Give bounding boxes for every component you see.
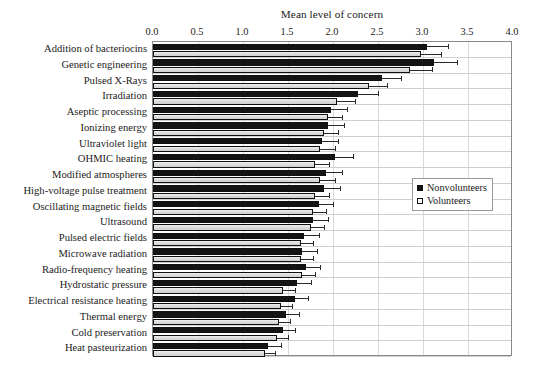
error-bar <box>301 259 314 260</box>
bar-volunteers <box>153 130 324 136</box>
error-bar-cap <box>342 115 343 120</box>
error-bar <box>320 180 334 181</box>
y-axis-label: Irradiation <box>102 88 147 104</box>
error-bar <box>337 101 355 102</box>
bar-group <box>153 58 511 74</box>
y-axis-label: Genetic engineering <box>61 57 147 73</box>
error-bar <box>286 314 299 315</box>
bar-group <box>153 105 511 121</box>
bar-group <box>153 294 511 310</box>
y-axis-label: Ultraviolet light <box>79 136 147 152</box>
error-bar <box>302 251 316 252</box>
error-bar <box>283 330 296 331</box>
error-bar <box>324 133 338 134</box>
bar-volunteers <box>153 335 277 341</box>
bar-nonvolunteers <box>153 264 306 270</box>
error-bar <box>301 243 314 244</box>
y-axis-category-labels: Addition of bacteriocinsGenetic engineer… <box>0 41 150 356</box>
bar-group <box>153 74 511 90</box>
error-bar-cap <box>281 343 282 348</box>
x-tick-label: 1.0 <box>236 26 249 37</box>
bar-group <box>153 121 511 137</box>
error-bar <box>328 125 344 126</box>
error-bar-cap <box>333 202 334 207</box>
bar-nonvolunteers <box>153 248 302 254</box>
bar-volunteers <box>153 303 281 309</box>
error-bar <box>427 46 449 47</box>
error-bar-cap <box>335 146 336 151</box>
y-axis-label: High-voltage pulse treatment <box>23 183 147 199</box>
error-bar <box>421 54 441 55</box>
error-bar-cap <box>401 76 402 81</box>
error-bar <box>283 290 296 291</box>
bar-volunteers <box>153 177 320 183</box>
y-axis-label: Radio-frequency heating <box>42 262 147 278</box>
x-axis-tick-labels: 0.00.51.01.52.02.53.03.54.0 <box>0 26 537 40</box>
bar-nonvolunteers <box>153 75 382 81</box>
bar-nonvolunteers <box>153 327 283 333</box>
y-axis-label: Ionizing energy <box>80 120 147 136</box>
error-bar-cap <box>342 170 343 175</box>
bar-group <box>153 231 511 247</box>
error-bar-cap <box>299 312 300 317</box>
error-bar <box>369 86 387 87</box>
legend-label: Volunteers <box>427 195 470 206</box>
bar-group <box>153 89 511 105</box>
error-bar <box>382 78 402 79</box>
y-axis-label: Electrical resistance heating <box>28 293 147 309</box>
error-bar-cap <box>313 241 314 246</box>
error-bar-cap <box>329 162 330 167</box>
bar-volunteers <box>153 83 369 89</box>
y-axis-label: Pulsed X-Rays <box>84 73 147 89</box>
x-tick-label: 3.0 <box>416 26 429 37</box>
bar-group <box>153 247 511 263</box>
error-bar <box>268 346 281 347</box>
bar-nonvolunteers <box>153 44 427 50</box>
bar-nonvolunteers <box>153 296 295 302</box>
error-bar-cap <box>275 351 276 356</box>
bar-volunteers <box>153 240 301 246</box>
x-tick-label: 2.5 <box>371 26 384 37</box>
error-bar-cap <box>355 99 356 104</box>
error-bar-cap <box>378 91 379 96</box>
y-axis-label: Heat pasteurization <box>65 340 147 356</box>
legend-label: Nonvolunteers <box>427 182 487 193</box>
error-bar <box>358 94 378 95</box>
error-bar-cap <box>335 178 336 183</box>
error-bar-cap <box>344 123 345 128</box>
y-axis-label: Microwave radiation <box>58 246 147 262</box>
bar-chart: Mean level of concern 0.00.51.01.52.02.5… <box>0 0 537 369</box>
error-bar-cap <box>338 130 339 135</box>
y-axis-label: Cold preservation <box>71 325 147 341</box>
error-bar <box>302 275 315 276</box>
bar-nonvolunteers <box>153 91 358 97</box>
y-axis-label: Addition of bacteriocins <box>44 41 147 57</box>
error-bar-cap <box>308 296 309 301</box>
error-bar-cap <box>441 52 442 57</box>
bar-nonvolunteers <box>153 59 434 65</box>
bar-volunteers <box>153 67 410 73</box>
bar-nonvolunteers <box>153 217 313 223</box>
bar-group <box>153 215 511 231</box>
error-bar <box>322 141 338 142</box>
error-bar-cap <box>326 209 327 214</box>
error-bar-cap <box>338 139 339 144</box>
y-axis-label: Modified atmospheres <box>52 167 147 183</box>
axis-title: Mean level of concern <box>152 8 512 20</box>
bar-nonvolunteers <box>153 233 304 239</box>
error-bar <box>320 149 334 150</box>
error-bar <box>281 306 292 307</box>
error-bar-cap <box>311 280 312 285</box>
bar-nonvolunteers <box>153 107 331 113</box>
bar-nonvolunteers <box>153 170 326 176</box>
bar-nonvolunteers <box>153 311 286 317</box>
error-bar-cap <box>320 265 321 270</box>
x-tick-label: 2.0 <box>326 26 339 37</box>
error-bar <box>311 227 324 228</box>
bar-nonvolunteers <box>153 280 297 286</box>
error-bar-cap <box>340 186 341 191</box>
error-bar-cap <box>324 225 325 230</box>
bar-nonvolunteers <box>153 138 322 144</box>
bar-nonvolunteers <box>153 122 328 128</box>
bar-volunteers <box>153 287 283 293</box>
